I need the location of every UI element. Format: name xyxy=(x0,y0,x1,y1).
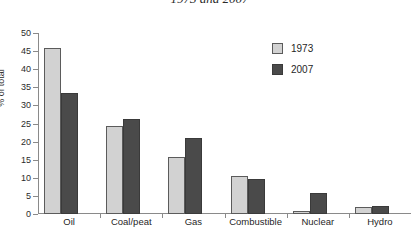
bar-gas-1973 xyxy=(168,157,185,214)
legend-item-1973: 1973 xyxy=(272,41,313,56)
bar-group xyxy=(349,33,411,214)
x-tick xyxy=(349,214,350,218)
bar-combustible-2007 xyxy=(248,179,265,214)
y-tick-label: 25 xyxy=(21,119,31,128)
y-tick-label: 45 xyxy=(21,47,31,56)
chart-title: 1973 and 2007 xyxy=(0,0,419,7)
bar-group xyxy=(100,33,162,214)
y-tick-label: 50 xyxy=(21,29,31,38)
bar-hydro-2007 xyxy=(372,206,389,214)
legend-swatch-1973 xyxy=(272,43,283,54)
bar-oil-1973 xyxy=(44,48,61,214)
plot-area: 05101520253035404550 OilCoal/peatGasComb… xyxy=(38,33,411,214)
bar-combustible-1973 xyxy=(231,176,248,214)
y-tick-label: 5 xyxy=(26,191,31,200)
x-tick xyxy=(100,214,101,218)
bar-coal-peat-1973 xyxy=(106,126,123,214)
y-tick xyxy=(33,214,38,215)
x-tick xyxy=(287,214,288,218)
legend-label-1973: 1973 xyxy=(291,44,313,54)
x-tick-label: Hydro xyxy=(367,216,392,227)
bar-chart: 1973 and 2007 % of total 051015202530354… xyxy=(0,0,419,241)
y-tick-label: 15 xyxy=(21,155,31,164)
legend: 1973 2007 xyxy=(272,41,313,83)
legend-swatch-2007 xyxy=(272,64,283,75)
x-tick-label: Coal/peat xyxy=(111,216,152,227)
bar-gas-2007 xyxy=(185,138,202,214)
bar-coal-peat-2007 xyxy=(123,119,140,214)
legend-item-2007: 2007 xyxy=(272,62,313,77)
y-tick-label: 35 xyxy=(21,83,31,92)
bar-nuclear-2007 xyxy=(310,193,327,214)
x-tick-label: Combustible xyxy=(229,216,282,227)
x-tick-label: Nuclear xyxy=(301,216,334,227)
x-tick-label: Gas xyxy=(185,216,202,227)
bar-hydro-1973 xyxy=(355,207,372,214)
y-tick-label: 30 xyxy=(21,101,31,110)
bar-nuclear-1973 xyxy=(293,211,310,214)
bar-oil-2007 xyxy=(61,93,78,214)
bar-group xyxy=(38,33,100,214)
bar-group xyxy=(162,33,224,214)
y-tick-label: 10 xyxy=(21,173,31,182)
x-tick xyxy=(162,214,163,218)
y-tick-label: 40 xyxy=(21,65,31,74)
x-tick-label: Oil xyxy=(63,216,75,227)
y-tick-label: 20 xyxy=(21,137,31,146)
y-axis-title: % of total xyxy=(0,69,6,107)
x-tick xyxy=(225,214,226,218)
y-tick-label: 0 xyxy=(26,210,31,219)
legend-label-2007: 2007 xyxy=(291,65,313,75)
